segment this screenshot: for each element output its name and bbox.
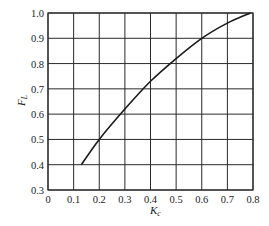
y-tick-label: 0.9	[31, 33, 44, 44]
y-tick-label: 0.7	[31, 84, 44, 95]
y-axis-label: FL	[15, 95, 29, 107]
y-tick-label: 0.8	[31, 59, 44, 70]
x-tick-label: 0.3	[118, 194, 131, 205]
x-tick-label: 0.8	[246, 194, 259, 205]
y-tick-label: 0.6	[31, 109, 44, 120]
chart-figure: 00.10.20.30.40.50.60.70.8 0.30.40.50.60.…	[0, 0, 269, 226]
x-axis-label: Kc	[149, 204, 161, 218]
y-tick-label: 0.5	[31, 134, 44, 145]
x-tick-label: 0.2	[93, 194, 106, 205]
grid-lines	[48, 13, 253, 190]
y-tick-label: 0.3	[31, 185, 44, 196]
x-tick-label: 0.5	[170, 194, 183, 205]
y-tick-labels: 0.30.40.50.60.70.80.91.0	[31, 8, 45, 196]
x-tick-label: 0.1	[67, 194, 80, 205]
y-tick-label: 1.0	[31, 8, 44, 19]
x-tick-label: 0	[45, 194, 50, 205]
x-tick-label: 0.6	[195, 194, 208, 205]
y-tick-label: 0.4	[31, 160, 45, 171]
x-tick-label: 0.7	[221, 194, 234, 205]
